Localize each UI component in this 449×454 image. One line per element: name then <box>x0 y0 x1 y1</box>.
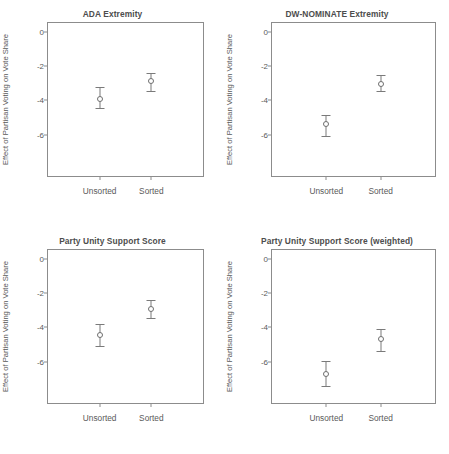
error-cap-upper <box>322 115 331 116</box>
y-tick-label: -2 <box>261 288 272 297</box>
plot-area: 0-2-4-6UnsortedSorted <box>271 249 436 404</box>
y-tick-label: -4 <box>261 323 272 332</box>
error-cap-lower <box>376 351 385 352</box>
panel-party-unity-support-score: Party Unity Support Score Effect of Part… <box>0 227 225 454</box>
y-tick-label: 0 <box>40 27 48 36</box>
x-tick-label: Unsorted <box>83 413 117 423</box>
error-cap-lower <box>322 386 331 387</box>
y-axis-label: Effect of Partisan Voting on Vote Share <box>0 249 12 404</box>
x-tick-label: Unsorted <box>309 413 343 423</box>
error-cap-lower <box>322 136 331 137</box>
y-tick-label: -4 <box>37 96 48 105</box>
data-point-marker <box>148 78 154 84</box>
y-axis-label: Effect of Partisan Voting on Vote Share <box>224 249 236 404</box>
x-tick-label: Unsorted <box>309 186 343 196</box>
error-cap-lower <box>95 108 104 109</box>
x-tick-label: Sorted <box>139 186 163 196</box>
error-cap-upper <box>147 73 156 74</box>
y-tick-label: -2 <box>37 288 48 297</box>
y-tick-label: -2 <box>37 61 48 70</box>
error-cap-upper <box>95 87 104 88</box>
x-tick-mark <box>380 176 381 180</box>
panel-ada-extremity: ADA Extremity Effect of Partisan Voting … <box>0 0 225 227</box>
data-point-marker <box>323 371 329 377</box>
x-tick-label: Unsorted <box>83 186 117 196</box>
y-tick-label: -4 <box>261 96 272 105</box>
panel-grid: ADA Extremity Effect of Partisan Voting … <box>0 0 449 454</box>
error-cap-upper <box>376 75 385 76</box>
x-tick-mark <box>99 403 100 407</box>
y-tick-label: -6 <box>261 130 272 139</box>
panel-dw-nominate-extremity: DW-NOMINATE Extremity Effect of Partisan… <box>225 0 449 227</box>
y-tick-label: -4 <box>37 323 48 332</box>
x-tick-mark <box>326 176 327 180</box>
x-tick-label: Sorted <box>139 413 163 423</box>
error-cap-upper <box>147 300 156 301</box>
x-tick-mark <box>326 403 327 407</box>
error-cap-lower <box>95 346 104 347</box>
y-tick-label: 0 <box>264 27 272 36</box>
y-tick-label: -6 <box>37 130 48 139</box>
x-tick-mark <box>151 176 152 180</box>
data-point-marker <box>148 306 154 312</box>
plot-area: 0-2-4-6UnsortedSorted <box>271 22 436 177</box>
x-tick-mark <box>99 176 100 180</box>
y-tick-label: 0 <box>40 254 48 263</box>
x-tick-label: Sorted <box>368 186 392 196</box>
panel-title: Party Unity Support Score (weighted) <box>225 236 449 246</box>
y-tick-label: -2 <box>261 61 272 70</box>
error-cap-upper <box>376 329 385 330</box>
panel-title: ADA Extremity <box>0 9 225 19</box>
plot-area: 0-2-4-6UnsortedSorted <box>47 22 204 177</box>
y-tick-label: -6 <box>37 357 48 366</box>
data-point-marker <box>97 332 103 338</box>
panel-title: DW-NOMINATE Extremity <box>225 9 449 19</box>
y-axis-label: Effect of Partisan Voting on Vote Share <box>224 22 236 177</box>
error-cap-lower <box>376 91 385 92</box>
data-point-marker <box>378 336 384 342</box>
data-point-marker <box>378 81 384 87</box>
data-point-marker <box>323 121 329 127</box>
x-tick-mark <box>380 403 381 407</box>
error-cap-upper <box>322 361 331 362</box>
error-cap-upper <box>95 324 104 325</box>
panel-party-unity-support-score-weighted: Party Unity Support Score (weighted) Eff… <box>225 227 449 454</box>
figure-canvas: ADA Extremity Effect of Partisan Voting … <box>0 0 449 454</box>
data-point-marker <box>97 96 103 102</box>
y-tick-label: 0 <box>264 254 272 263</box>
x-tick-mark <box>151 403 152 407</box>
panel-title: Party Unity Support Score <box>0 236 225 246</box>
x-tick-label: Sorted <box>368 413 392 423</box>
error-cap-lower <box>147 91 156 92</box>
y-tick-label: -6 <box>261 357 272 366</box>
error-cap-lower <box>147 318 156 319</box>
y-axis-label: Effect of Partisan Voting on Vote Share <box>0 22 12 177</box>
plot-area: 0-2-4-6UnsortedSorted <box>47 249 204 404</box>
